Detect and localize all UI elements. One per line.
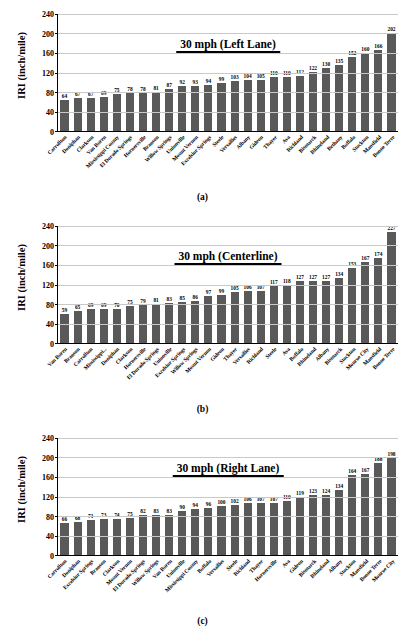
bar-value-label: 69 bbox=[101, 301, 106, 309]
bar-value-label: 130 bbox=[322, 60, 330, 68]
bar-value-label: 64 bbox=[62, 92, 67, 100]
y-axis-title: IRI (inch/mile) bbox=[16, 1, 27, 131]
bar-value-label: 92 bbox=[180, 78, 185, 86]
bar: 75 bbox=[126, 518, 134, 555]
y-tick-label: 40 bbox=[30, 532, 54, 541]
bar: 69 bbox=[100, 309, 108, 343]
x-label-slot: Hornersville bbox=[267, 557, 280, 619]
gridline bbox=[58, 73, 398, 74]
bar: 198 bbox=[387, 458, 395, 555]
chart-c: IRI (inch/mile) 04080120160200240 30 mph… bbox=[0, 424, 405, 636]
bar: 105 bbox=[231, 292, 239, 343]
y-tick-label: 240 bbox=[30, 10, 54, 19]
bar-value-label: 87 bbox=[166, 81, 171, 89]
y-tick-label: 200 bbox=[30, 29, 54, 38]
bar: 135 bbox=[335, 65, 343, 131]
y-tick-label: 200 bbox=[30, 241, 54, 250]
y-tick-mark bbox=[55, 536, 58, 537]
gridline bbox=[58, 516, 398, 517]
bar: 67 bbox=[87, 98, 95, 131]
y-axis-tick-labels-a: 04080120160200240 bbox=[30, 14, 54, 132]
bar: 85 bbox=[178, 302, 186, 343]
y-tick-mark bbox=[55, 457, 58, 458]
panel-caption-b: (b) bbox=[0, 404, 405, 414]
x-label-slot: Monroe City bbox=[385, 557, 398, 619]
bar-value-label: 97 bbox=[206, 288, 211, 296]
bar-value-label: 81 bbox=[153, 296, 158, 304]
y-axis-tick-labels-b: 04080120160200240 bbox=[30, 226, 54, 344]
bar: 71 bbox=[87, 520, 95, 555]
bar: 112 bbox=[296, 76, 304, 131]
bar-value-label: 75 bbox=[127, 510, 132, 518]
bar-value-label: 94 bbox=[206, 77, 211, 85]
y-tick-label: 240 bbox=[30, 222, 54, 231]
y-tick-label: 40 bbox=[30, 108, 54, 117]
bar: 99 bbox=[217, 83, 225, 131]
bar-value-label: 167 bbox=[361, 254, 369, 262]
bar: 104 bbox=[244, 80, 252, 131]
y-tick-mark bbox=[55, 265, 58, 266]
bar-value-label: 127 bbox=[309, 273, 317, 281]
y-tick-mark bbox=[55, 343, 58, 344]
bar: 86 bbox=[191, 301, 199, 343]
bar-value-label: 94 bbox=[193, 501, 198, 509]
y-tick-label: 160 bbox=[30, 49, 54, 58]
y-tick-mark bbox=[55, 438, 58, 439]
bar-value-label: 59 bbox=[62, 306, 67, 314]
x-axis-tick-labels-b: Van BurenBransonCarrolltonMississippi...… bbox=[57, 345, 398, 407]
chart-panel-c: IRI (inch/mile) 04080120160200240 30 mph… bbox=[0, 424, 405, 636]
y-tick-label: 0 bbox=[30, 340, 54, 349]
y-tick-mark bbox=[55, 14, 58, 15]
bar: 68 bbox=[74, 522, 82, 555]
bar: 107 bbox=[270, 503, 278, 555]
bar-value-label: 122 bbox=[309, 64, 317, 72]
bar-value-label: 81 bbox=[153, 84, 158, 92]
y-tick-label: 120 bbox=[30, 493, 54, 502]
gridline bbox=[58, 285, 398, 286]
y-tick-label: 160 bbox=[30, 261, 54, 270]
bar-value-label: 103 bbox=[231, 73, 239, 81]
y-tick-mark bbox=[55, 285, 58, 286]
bar: 202 bbox=[387, 33, 395, 131]
bar: 124 bbox=[322, 495, 330, 555]
y-tick-label: 120 bbox=[30, 69, 54, 78]
bar: 134 bbox=[335, 278, 343, 343]
bar: 107 bbox=[257, 503, 265, 555]
y-tick-mark bbox=[55, 516, 58, 517]
bar-value-label: 123 bbox=[309, 487, 317, 495]
y-axis-title: IRI (inch/mile) bbox=[16, 425, 27, 555]
bar: 64 bbox=[60, 100, 68, 131]
gridline bbox=[58, 324, 398, 325]
gridline bbox=[58, 457, 398, 458]
chart-b: IRI (inch/mile) 04080120160200240 30 mph… bbox=[0, 212, 405, 424]
bar-value-label: 93 bbox=[193, 78, 198, 86]
bar: 110 bbox=[270, 77, 278, 131]
bar-value-label: 82 bbox=[140, 507, 145, 515]
bar-value-label: 75 bbox=[127, 298, 132, 306]
bar-value-label: 99 bbox=[219, 287, 224, 295]
bar-value-label: 74 bbox=[114, 511, 119, 519]
bar-value-label: 174 bbox=[374, 250, 382, 258]
gridline bbox=[58, 53, 398, 54]
y-axis-title: IRI (inch/mile) bbox=[16, 213, 27, 343]
bar: 90 bbox=[178, 511, 186, 555]
bar: 103 bbox=[231, 81, 239, 131]
bar-value-label: 75 bbox=[114, 86, 119, 94]
chart-a: IRI (inch/mile) 04080120160200240 30 mph… bbox=[0, 0, 405, 212]
chart-panel-a: IRI (inch/mile) 04080120160200240 30 mph… bbox=[0, 0, 405, 212]
plot-area-b: 30 mph (Centerline) 59656969707579818385… bbox=[57, 226, 398, 344]
bar: 75 bbox=[113, 94, 121, 131]
gridline bbox=[58, 536, 398, 537]
y-axis-tick-labels-c: 04080120160200240 bbox=[30, 438, 54, 556]
bar-value-label: 102 bbox=[231, 497, 239, 505]
plot-area-c: 30 mph (Right Lane) 66687173747582838390… bbox=[57, 438, 398, 556]
y-tick-mark bbox=[55, 131, 58, 132]
bar: 152 bbox=[348, 57, 356, 131]
x-label-slot: Bonne Terre bbox=[385, 133, 398, 195]
bar-value-label: 167 bbox=[361, 466, 369, 474]
bar-value-label: 104 bbox=[244, 72, 252, 80]
bar: 97 bbox=[204, 296, 212, 343]
bar: 75 bbox=[126, 306, 134, 343]
bar: 127 bbox=[309, 281, 317, 343]
bar-value-label: 135 bbox=[335, 57, 343, 65]
